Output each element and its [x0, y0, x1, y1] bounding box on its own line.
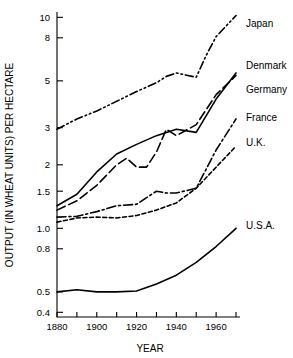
y-tick-label: 0.4	[37, 307, 50, 318]
x-tick-label: 1920	[126, 321, 147, 332]
y-tick-label: 2	[45, 159, 50, 170]
series-label-japan: Japan	[246, 18, 273, 29]
chart-series-lines	[57, 16, 236, 292]
y-tick-label: 0.5	[37, 286, 50, 297]
series-line-usa	[57, 228, 236, 292]
y-tick-label: 5	[45, 75, 50, 86]
x-tick-label: 1960	[206, 321, 227, 332]
x-tick-label: 1900	[86, 321, 107, 332]
series-label-germany: Germany	[246, 84, 287, 95]
series-label-france: France	[246, 112, 278, 123]
x-tick-label: 1940	[166, 321, 187, 332]
line-chart-svg: 0.40.50.81.01.5235810 188019001920194019…	[0, 0, 293, 358]
x-tick-label: 1880	[46, 321, 67, 332]
y-tick-label: 0.8	[37, 243, 50, 254]
y-tick-label: 8	[45, 32, 50, 43]
x-axis-title: YEAR	[136, 343, 163, 354]
y-tick-label: 3	[45, 122, 50, 133]
series-line-uk	[57, 146, 236, 222]
y-tick-label: 1.0	[37, 223, 50, 234]
series-line-france	[57, 119, 236, 217]
series-line-germany	[57, 76, 236, 211]
series-label-denmark: Denmark	[246, 60, 288, 71]
y-axis-tick-labels: 0.40.50.81.01.5235810	[37, 12, 50, 318]
chart-figure: 0.40.50.81.01.5235810 188019001920194019…	[0, 0, 293, 358]
x-axis-tick-labels: 18801900192019401960	[46, 321, 226, 332]
series-label-uk: U.K.	[246, 137, 265, 148]
series-line-denmark	[57, 73, 236, 206]
y-tick-label: 1.5	[37, 186, 50, 197]
series-label-usa: U.S.A.	[246, 220, 275, 231]
series-inline-labels: JapanDenmarkGermanyFranceU.K.U.S.A.	[246, 18, 288, 231]
chart-axes	[57, 12, 240, 317]
y-axis-title: OUTPUT (IN WHEAT UNITS) PER HECTARE	[4, 63, 15, 268]
y-tick-label: 10	[39, 12, 50, 23]
